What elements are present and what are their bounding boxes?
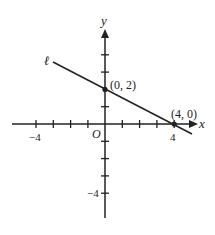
point-label-0-2: (0, 2) xyxy=(110,78,136,92)
point-0-2 xyxy=(102,87,107,92)
x-axis-label: x xyxy=(198,116,205,131)
point-label-4-0: (4, 0) xyxy=(171,107,197,121)
y-axis-label: y xyxy=(99,13,107,28)
x-axis-arrow-icon xyxy=(189,120,198,128)
origin-label: O xyxy=(92,127,101,141)
y-axis-arrow-icon xyxy=(101,29,109,38)
coordinate-plane: y x O −4 4 −4 ℓ (0, 2) (4, 0) xyxy=(0,0,215,235)
point-4-0 xyxy=(172,121,177,126)
x-tick-label-4: 4 xyxy=(170,131,176,143)
y-tick-label-neg4: −4 xyxy=(87,187,99,199)
line-name-label: ℓ xyxy=(44,53,50,68)
x-tick-label-neg4: −4 xyxy=(29,131,41,143)
